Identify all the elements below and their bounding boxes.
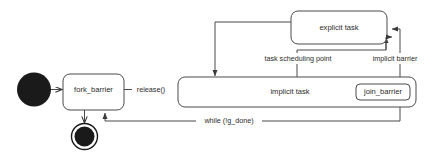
state-label-explicit-task: explicit task <box>319 23 358 32</box>
uml-state-diagram: release() while (!g_done) task schedulin… <box>0 0 446 158</box>
diagram-canvas: release() while (!g_done) task schedulin… <box>0 0 446 158</box>
state-explicit-task[interactable]: explicit task <box>291 11 387 44</box>
state-label-implicit-task: implicit task <box>270 87 309 96</box>
edge-label-release: release() <box>137 85 165 94</box>
edge-label-while-g-done: while (!g_done) <box>203 116 253 125</box>
edge-label-task-scheduling-point: task scheduling point <box>264 54 331 63</box>
state-label-fork-barrier: fork_barrier <box>74 85 113 94</box>
state-fork-barrier[interactable]: fork_barrier <box>63 74 124 110</box>
state-join-barrier[interactable]: join_barrier <box>356 84 410 100</box>
initial-state-node <box>17 73 51 107</box>
transition-explicit-task-to-implicit-task <box>215 22 291 76</box>
edge-label-implicit-barrier: implicit barrier <box>373 54 418 63</box>
transition-join-barrier-to-fork-barrier: while (!g_done) <box>105 106 400 126</box>
state-label-join-barrier: join_barrier <box>363 87 402 96</box>
transition-fork-barrier-to-implicit-task: release() <box>124 85 171 95</box>
final-state-node <box>72 124 98 150</box>
